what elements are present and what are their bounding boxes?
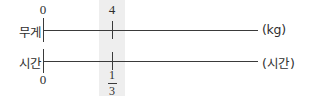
unit-label-time: (시간) [262,53,295,72]
value-label-time-origin: 0 [33,72,53,88]
value-label-time-marked-fraction: 1 3 [102,69,122,97]
fraction-numerator: 1 [107,69,117,82]
row-label-time: 시간 [6,53,42,72]
tick-mark-weight [112,21,113,39]
axis-line-time [43,61,258,62]
axis-line-weight [43,30,258,31]
row-label-weight: 무게 [6,22,42,41]
value-label-weight-marked: 4 [102,2,122,18]
tick-origin-time [43,49,44,73]
fraction-denominator: 3 [107,85,117,98]
double-number-line-diagram: 무게 0 4 (kg) 시간 0 1 3 (시간) [0,0,312,102]
value-label-weight-origin: 0 [33,2,53,18]
unit-label-weight: (kg) [262,22,286,37]
tick-origin-weight [43,18,44,42]
